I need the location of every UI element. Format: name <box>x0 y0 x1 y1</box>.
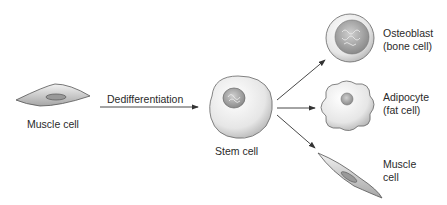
muscle-cell-outcome-icon <box>318 153 382 198</box>
stem-cell-label: Stem cell <box>215 145 258 157</box>
muscle-outcome-label: Muscle <box>383 158 416 170</box>
adipocyte-icon <box>321 81 374 131</box>
osteoblast-icon <box>326 14 374 62</box>
adipocyte-label: Adipocyte <box>383 91 429 103</box>
osteoblast-sublabel: (bone cell) <box>383 40 432 52</box>
arrow-to-osteoblast <box>277 60 325 100</box>
stem-cell-icon <box>210 76 273 138</box>
source-muscle-cell-icon <box>16 84 90 106</box>
arrow-to-muscle-cell <box>277 115 315 148</box>
process-label: Dedifferentiation <box>107 93 183 105</box>
source-cell-label: Muscle cell <box>27 118 79 130</box>
osteoblast-label: Osteoblast <box>383 27 433 39</box>
diagram-canvas <box>0 0 447 205</box>
muscle-outcome-sublabel: cell <box>383 171 399 183</box>
adipocyte-sublabel: (fat cell) <box>383 104 420 116</box>
